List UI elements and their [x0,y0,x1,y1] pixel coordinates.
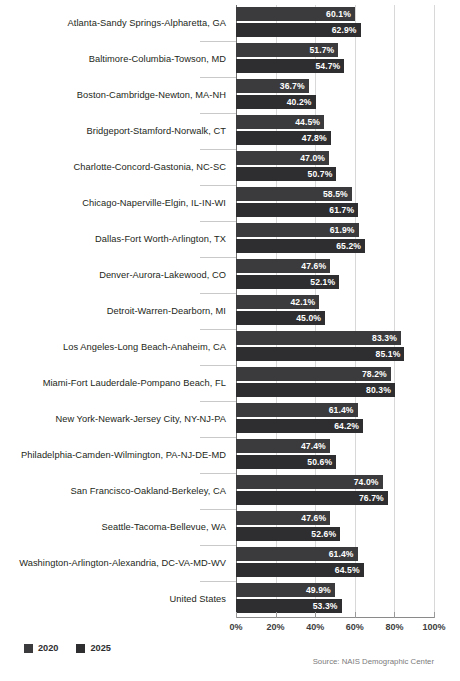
bar-2025: 64.2% [236,419,363,433]
bar-group: 42.1%45.0% [236,293,460,329]
bar-value-label: 61.7% [329,203,354,217]
bar-2020: 60.1% [236,7,355,21]
bar-2020: 42.1% [236,295,319,309]
bar-value-label: 51.7% [309,43,334,57]
source-note: Source: NAIS Demographic Center [313,657,434,666]
category-label: Bridgeport-Stamford-Norwalk, CT [8,113,226,149]
bar-value-label: 50.7% [308,167,333,181]
bar-2025: 45.0% [236,311,325,325]
bar-2020: 61.9% [236,223,359,237]
bar-value-label: 47.0% [300,151,325,165]
category-label: Philadelphia-Camden-Wilmington, PA-NJ-DE… [8,437,226,473]
bar-2020: 36.7% [236,79,309,93]
category-label: Washington-Arlington-Alexandria, DC-VA-M… [8,545,226,581]
bar-value-label: 85.1% [376,347,401,361]
bar-value-label: 50.6% [307,455,332,469]
bar-value-label: 76.7% [359,491,384,505]
category-label: United States [8,581,226,617]
bar-value-label: 80.3% [366,383,391,397]
bar-2020: 83.3% [236,331,401,345]
legend-swatch-icon [24,644,33,653]
bar-value-label: 42.1% [290,295,315,309]
bar-2025: 52.6% [236,527,340,541]
bar-group: 83.3%85.1% [236,329,460,365]
bar-value-label: 58.5% [323,187,348,201]
bar-value-label: 52.1% [310,275,335,289]
x-axis-tick [236,612,237,618]
bar-2025: 54.7% [236,59,344,73]
chart-row: Seattle-Tacoma-Bellevue, WA47.6%52.6% [0,509,460,545]
bar-2020: 78.2% [236,367,391,381]
bar-value-label: 74.0% [354,475,379,489]
bar-value-label: 45.0% [296,311,321,325]
bar-value-label: 54.7% [315,59,340,73]
bar-group: 74.0%76.7% [236,473,460,509]
bar-2020: 47.0% [236,151,329,165]
bar-group: 47.6%52.1% [236,257,460,293]
bar-2025: 85.1% [236,347,404,361]
chart-legend: 20202025 [24,643,111,653]
bar-group: 61.9%65.2% [236,221,460,257]
bar-2025: 65.2% [236,239,365,253]
bar-2020: 74.0% [236,475,383,489]
category-label: Boston-Cambridge-Newton, MA-NH [8,77,226,113]
bar-value-label: 61.4% [329,403,354,417]
bar-2025: 40.2% [236,95,316,109]
x-axis-tick [276,612,277,618]
bar-2025: 61.7% [236,203,358,217]
chart-row: Charlotte-Concord-Gastonia, NC-SC47.0%50… [0,149,460,185]
chart-row: Detroit-Warren-Dearborn, MI42.1%45.0% [0,293,460,329]
category-label: Los Angeles-Long Beach-Anaheim, CA [8,329,226,365]
bar-2025: 76.7% [236,491,388,505]
x-axis-tick-label: 20% [267,622,285,632]
chart-row: Miami-Fort Lauderdale-Pompano Beach, FL7… [0,365,460,401]
bar-value-label: 83.3% [372,331,397,345]
category-label: Baltimore-Columbia-Towson, MD [8,41,226,77]
bar-value-label: 64.5% [335,563,360,577]
x-axis-tick-label: 100% [422,622,445,632]
bar-group: 58.5%61.7% [236,185,460,221]
bar-2020: 61.4% [236,403,358,417]
chart-row: Washington-Arlington-Alexandria, DC-VA-M… [0,545,460,581]
bar-2025: 53.3% [236,599,342,613]
x-axis-tick [394,612,395,618]
chart-row: Dallas-Fort Worth-Arlington, TX61.9%65.2… [0,221,460,257]
bar-value-label: 62.9% [332,23,357,37]
x-axis-line [236,617,434,618]
legend-item-2020[interactable]: 2020 [24,643,58,653]
bar-2025: 52.1% [236,275,339,289]
category-label: Miami-Fort Lauderdale-Pompano Beach, FL [8,365,226,401]
chart-row: Philadelphia-Camden-Wilmington, PA-NJ-DE… [0,437,460,473]
bar-value-label: 40.2% [287,95,312,109]
bar-value-label: 36.7% [280,79,305,93]
chart-row: Los Angeles-Long Beach-Anaheim, CA83.3%8… [0,329,460,365]
category-label: Chicago-Naperville-Elgin, IL-IN-WI [8,185,226,221]
x-axis-tick [315,612,316,618]
x-axis-tick [434,612,435,618]
bar-value-label: 47.6% [301,259,326,273]
x-axis-tick-label: 60% [346,622,364,632]
bar-2020: 47.4% [236,439,330,453]
category-label: Detroit-Warren-Dearborn, MI [8,293,226,329]
bar-2025: 64.5% [236,563,364,577]
bar-2025: 47.8% [236,131,331,145]
bar-2020: 58.5% [236,187,352,201]
bar-group: 47.0%50.7% [236,149,460,185]
plot-area: Atlanta-Sandy Springs-Alpharetta, GA60.1… [0,5,460,617]
chart-row: San Francisco-Oakland-Berkeley, CA74.0%7… [0,473,460,509]
bar-2020: 47.6% [236,259,330,273]
bar-value-label: 60.1% [326,7,351,21]
x-axis-tick [355,612,356,618]
legend-label: 2025 [90,643,110,653]
legend-item-2025[interactable]: 2025 [76,643,110,653]
bar-2020: 49.9% [236,583,335,597]
chart-row: Denver-Aurora-Lakewood, CO47.6%52.1% [0,257,460,293]
bar-value-label: 49.9% [306,583,331,597]
bar-value-label: 61.9% [330,223,355,237]
x-axis-tick-label: 40% [306,622,324,632]
bar-2025: 50.6% [236,455,336,469]
bar-group: 47.4%50.6% [236,437,460,473]
bar-group: 51.7%54.7% [236,41,460,77]
category-label: Dallas-Fort Worth-Arlington, TX [8,221,226,257]
bar-2020: 61.4% [236,547,358,561]
